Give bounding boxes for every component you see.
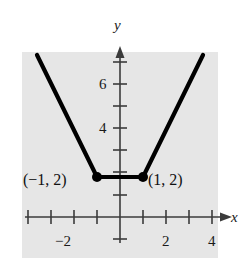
data-point-right [138, 172, 148, 182]
x-axis-label: x [231, 210, 238, 225]
coordinate-plane-plot [0, 0, 241, 272]
y-tick-label-4: 4 [99, 121, 107, 136]
y-tick-label-6: 6 [99, 77, 107, 92]
data-point-left [92, 172, 102, 182]
x-tick-label-2: 2 [162, 234, 170, 249]
point-annotation-left: (−1, 2) [23, 172, 67, 188]
y-axis-label: y [114, 18, 121, 33]
x-tick-label-neg2: −2 [55, 234, 71, 249]
graph-figure: y x 6 4 −2 2 4 (−1, 2) (1, 2) [0, 0, 241, 272]
x-tick-label-4: 4 [208, 234, 216, 249]
point-annotation-right: (1, 2) [148, 172, 183, 188]
